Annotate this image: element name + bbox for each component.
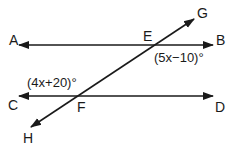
diagram-canvas: A B E G C F D H (5x−10)° (4x+20)° — [0, 0, 234, 152]
point-label-b: B — [216, 32, 225, 48]
point-label-d: D — [215, 99, 225, 115]
transversal-gh — [31, 19, 194, 127]
point-label-h: H — [23, 130, 33, 146]
point-label-a: A — [9, 32, 19, 48]
angle-label-e: (5x−10)° — [154, 50, 204, 65]
point-label-g: G — [197, 5, 208, 21]
angle-label-f: (4x+20)° — [27, 75, 77, 90]
geometry-figure: A B E G C F D H (5x−10)° (4x+20)° — [0, 0, 234, 152]
point-label-c: C — [8, 97, 18, 113]
point-label-e: E — [143, 28, 152, 44]
point-label-f: F — [77, 99, 86, 115]
